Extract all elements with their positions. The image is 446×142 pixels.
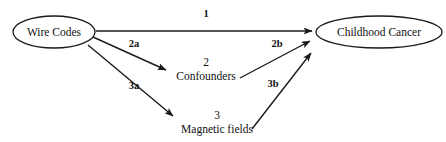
magnetic-fields-number: 3 [214,109,220,121]
edge-3b-label: 3b [267,78,278,89]
edge-1-label: 1 [203,8,208,19]
node-confounders: 2 Confounders [176,56,236,82]
node-wire-codes: Wire Codes [13,16,95,48]
diagram-canvas: 1 2a 2b 3a 3b Wire Codes C [0,0,446,142]
confounders-number: 2 [203,56,209,68]
edge-3a-label: 3a [129,80,140,91]
childhood-cancer-label: Childhood Cancer [337,26,421,38]
node-childhood-cancer: Childhood Cancer [316,16,442,48]
wire-codes-label: Wire Codes [27,26,82,38]
edge-2a-label: 2a [129,38,140,49]
edge-2a: 2a [93,37,166,70]
node-magnetic-fields: 3 Magnetic fields [181,109,253,136]
edge-2b: 2b [240,38,310,78]
magnetic-fields-label: Magnetic fields [181,123,253,136]
edge-1: 1 [96,8,312,31]
edge-2b-label: 2b [271,38,282,49]
edge-3b-line [252,53,311,129]
edge-3b: 3b [252,53,311,129]
confounders-label: Confounders [176,70,236,82]
edge-3a: 3a [88,45,173,116]
causal-diagram: 1 2a 2b 3a 3b Wire Codes C [0,0,446,142]
